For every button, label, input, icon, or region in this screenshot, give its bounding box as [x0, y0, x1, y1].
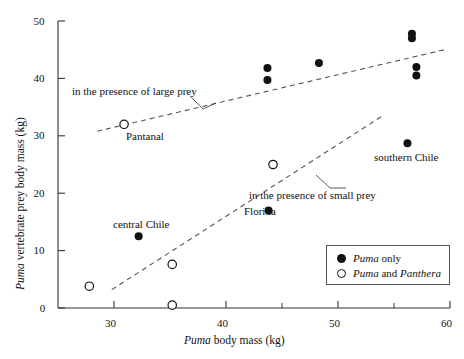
y-tick-label: 30 [34, 130, 45, 141]
point-label-pantanal: Pantanal [126, 131, 164, 142]
point-label-central-chile: central Chile [113, 219, 170, 230]
legend-item-puma-and-panthera: Puma and Panthera [337, 267, 441, 279]
data-point-filled [263, 64, 271, 72]
scatter-plot-figure: 30405060 01020304050 Puma body mass (kg)… [0, 0, 464, 359]
data-point-open [168, 260, 176, 268]
open-circle-icon [337, 269, 346, 278]
y-tick-label: 50 [34, 16, 45, 27]
x-axis-title: Puma body mass (kg) [184, 335, 285, 347]
data-point-open [85, 282, 93, 290]
point-label-southern-chile: southern Chile [374, 152, 438, 163]
x-tick-label: 50 [329, 318, 340, 329]
y-tick-label: 0 [40, 303, 46, 314]
x-tick-label: 40 [217, 318, 228, 329]
data-point-open [120, 120, 128, 128]
legend-box: Puma only Puma and Panthera [326, 245, 450, 285]
data-point-filled [408, 34, 416, 42]
y-tick-label: 20 [34, 188, 45, 199]
x-axis-title-rest: body mass (kg) [211, 334, 285, 346]
legend-italic-puma: Puma [353, 252, 379, 264]
y-axis-ticks [58, 21, 65, 308]
data-point-open [168, 301, 176, 309]
plot-canvas [0, 0, 464, 359]
legend-rest-only: only [379, 252, 401, 264]
filled-circle-icon [337, 254, 346, 263]
legend-mid-and: and [379, 267, 400, 279]
data-point-filled [412, 63, 420, 71]
legend-italic-puma2: Puma [353, 267, 379, 279]
y-axis-title-italic: Puma [14, 263, 26, 290]
x-axis-title-italic: Puma [184, 334, 211, 346]
data-point-open [269, 160, 277, 168]
legend-label-puma-and-panthera: Puma and Panthera [353, 267, 441, 279]
data-point-filled [135, 232, 143, 240]
point-label-florida: Florida [244, 206, 276, 217]
data-point-filled [412, 72, 420, 80]
y-tick-label: 10 [34, 245, 45, 256]
legend-item-puma-only: Puma only [337, 252, 401, 264]
y-axis-title: Puma vertebrate prey body mass (kg) [14, 117, 26, 290]
y-axis-title-rest: vertebrate prey body mass (kg) [14, 117, 26, 263]
annotation-leader-lines [190, 96, 346, 188]
x-axis-ticks [114, 301, 450, 308]
data-point-filled [263, 76, 271, 84]
data-point-filled [315, 59, 323, 67]
x-tick-label: 60 [441, 318, 452, 329]
legend-label-puma-only: Puma only [353, 252, 401, 264]
annotation-large-prey: in the presence of large prey [72, 86, 197, 97]
x-tick-label: 30 [105, 318, 116, 329]
legend-italic-panthera: Panthera [400, 267, 441, 279]
data-point-filled [403, 139, 411, 147]
annotation-small-prey: in the presence of small prey [249, 190, 376, 201]
y-tick-label: 40 [34, 73, 45, 84]
